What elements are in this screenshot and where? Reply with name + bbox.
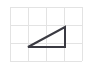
figure-svg (0, 0, 92, 69)
geometry-figure-canvas (0, 0, 92, 69)
